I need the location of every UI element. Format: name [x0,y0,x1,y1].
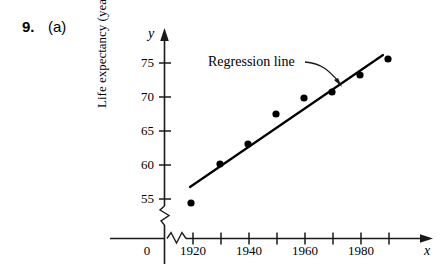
y-tick-label-60: 60 [128,157,154,173]
y-tick-label-55: 55 [128,191,154,207]
data-point [384,55,391,62]
chart-canvas [0,0,443,277]
x-tick-label-1940: 1940 [229,243,269,259]
origin-label: 0 [138,243,156,259]
y-tick-label-65: 65 [128,123,154,139]
regression-line-annotation: Regression line [208,54,295,70]
data-point [216,160,223,167]
data-point [187,199,194,206]
y-axis-arrowhead [160,28,169,41]
x-axis-variable-name: x [424,243,430,259]
data-point [300,94,307,101]
annotation-leader-line [305,62,339,82]
y-tick-label-75: 75 [128,55,154,71]
x-tick-label-1980: 1980 [341,243,381,259]
x-tick-label-1920: 1920 [173,243,213,259]
data-point [356,71,363,78]
data-point [272,110,279,117]
x-tick-label-1960: 1960 [285,243,325,259]
x-axis-break-icon [167,233,186,244]
data-point [328,88,335,95]
y-axis-variable-name: y [148,26,154,42]
data-point [244,140,251,147]
figure-root: 9. (a) Life expectancy (years) [0,0,443,277]
x-axis-arrowhead [420,234,433,243]
y-axis-break-icon [160,206,169,225]
y-tick-label-70: 70 [128,89,154,105]
